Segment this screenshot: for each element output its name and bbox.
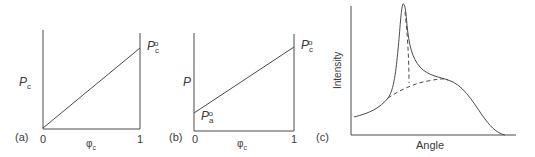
panel-b-end-label-sup: o [308, 38, 312, 47]
panel-a-plot [43, 30, 140, 129]
panel-a-end-label: Pco [147, 40, 163, 52]
panel-a-x-label: φc [86, 139, 96, 149]
panel-c-label: (c) [316, 132, 329, 143]
panel-c-halo-baseline [388, 79, 448, 98]
panel-c-total-curve [354, 4, 505, 135]
panel-a-label: (a) [15, 132, 28, 143]
panel-c-x-label: Angle [416, 140, 444, 151]
panel-b-x-tick-0: 0 [192, 134, 198, 145]
panel-a-y-label-sub: c [27, 82, 31, 91]
panel-b-data-line [194, 47, 294, 113]
panel-b-y-label: P [183, 76, 191, 88]
panel-b-x-label-sub: c [243, 144, 247, 151]
panel-b-x-tick-1: 1 [291, 134, 297, 145]
panel-b-start-label: Pao [201, 110, 218, 122]
panel-b-label: (b) [169, 132, 182, 143]
panel-a-x-tick-1: 1 [137, 134, 143, 145]
panel-c-y-label: Intensity [333, 52, 343, 89]
panel-c-plot [351, 4, 516, 135]
figure-canvas [0, 0, 535, 157]
panel-a-end-label-sup: o [154, 39, 158, 48]
panel-a-data-line [43, 48, 140, 128]
panel-a-x-tick-0: 0 [40, 134, 46, 145]
panel-b-end-label: Pco [301, 39, 317, 51]
panel-b-start-label-sup: o [208, 109, 212, 118]
panel-a-x-label-sub: c [92, 144, 96, 151]
panel-a-y-label-main: P [19, 75, 27, 89]
panel-a-y-label: Pc [19, 76, 31, 88]
panel-b-x-label: φc [237, 139, 247, 149]
